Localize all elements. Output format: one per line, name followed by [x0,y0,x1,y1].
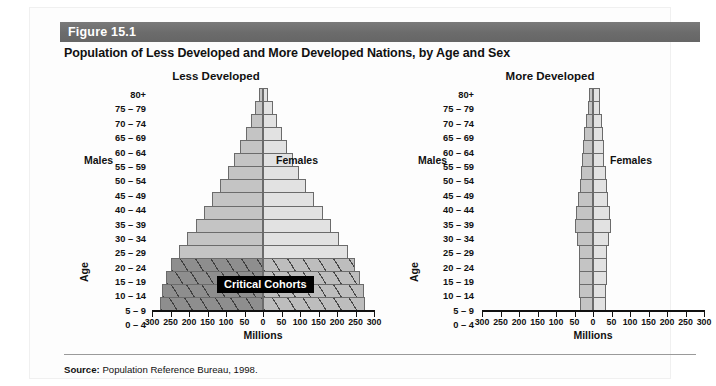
x-axis-tick [300,310,301,317]
x-axis-tick [226,310,227,317]
age-tick-label: 25 – 29 [100,246,146,260]
age-tick-label: 65 – 69 [428,131,474,145]
age-tick-label: 10 – 14 [100,289,146,303]
x-axis-tick-label: 300 [691,317,716,327]
age-tick-label: 30 – 34 [428,232,474,246]
x-axis-tick [245,310,246,317]
age-tick-label: 40 – 44 [428,203,474,217]
x-axis-tick [263,310,264,317]
age-tick-label: 5 – 9 [428,304,474,318]
legend-label-females: Females [276,154,318,166]
y-axis-title-right: Age [408,262,420,282]
x-axis-tick [171,310,172,317]
x-axis-tick [649,310,650,317]
legend-label-males: Males [418,154,447,166]
age-tick-label: 80+ [100,88,146,102]
figure-panel: Figure 15.1 Population of Less Developed… [30,8,670,378]
age-tick-label: 75 – 79 [428,102,474,116]
x-axis-tick [482,310,483,317]
x-axis-title-right: Millions [482,329,704,341]
x-axis-tick [319,310,320,317]
age-tick-label: 40 – 44 [100,203,146,217]
x-axis-title-left: Millions [152,329,374,341]
age-tick-label: 45 – 49 [428,189,474,203]
x-axis-tick [575,310,576,317]
x-axis-ticklabels-left: 30025020015010050050100150200250300 [140,317,386,329]
x-axis-tick [337,310,338,317]
x-axis-tick [519,310,520,317]
x-axis-tick [374,310,375,317]
x-axis-tick [686,310,687,317]
y-axis-ticklabels-right: 80+75 – 7970 – 7465 – 6960 – 6455 – 5950… [428,88,474,310]
age-tick-label: 10 – 14 [428,289,474,303]
x-axis-left [152,310,374,317]
source-label: Source: [64,364,100,375]
age-tick-label: 35 – 39 [428,218,474,232]
age-tick-label: 15 – 19 [100,275,146,289]
source-line: Source: Population Reference Bureau, 199… [64,364,258,375]
x-axis-tick [630,310,631,317]
age-tick-label: 20 – 24 [428,261,474,275]
figure-number-band: Figure 15.1 [60,22,700,42]
x-axis-tick [282,310,283,317]
age-tick-label: 20 – 24 [100,261,146,275]
source-text: Population Reference Bureau, 1998. [100,364,258,375]
age-tick-label: 30 – 34 [100,232,146,246]
x-axis-tick [208,310,209,317]
age-tick-label: 65 – 69 [100,131,146,145]
chart-less-developed: Less Developed Age 80+75 – 7970 – 7465 –… [44,70,388,340]
age-tick-label: 35 – 39 [100,218,146,232]
x-axis-tick [556,310,557,317]
age-tick-label: 50 – 54 [100,174,146,188]
x-axis-tick [152,310,153,317]
chart-more-developed: More Developed Age 80+75 – 7970 – 7465 –… [382,70,716,340]
y-axis-title-left: Age [78,262,90,282]
age-tick-label: 50 – 54 [428,174,474,188]
age-tick-label: 45 – 49 [100,189,146,203]
x-axis-right [482,310,704,317]
x-axis-tick [612,310,613,317]
age-tick-label: 15 – 19 [428,275,474,289]
y-axis-ticklabels-left: 80+75 – 7970 – 7465 – 6960 – 6455 – 5950… [100,88,146,310]
footer-divider [64,354,696,355]
age-tick-label: 25 – 29 [428,246,474,260]
figure-title: Population of Less Developed and More De… [64,46,694,60]
chart-title-more-developed: More Developed [382,70,716,82]
x-axis-tick [593,310,594,317]
x-axis-tick [356,310,357,317]
x-axis-tick [189,310,190,317]
critical-cohorts-callout: Critical Cohorts [217,276,314,293]
x-axis-tick [704,310,705,317]
chart-title-less-developed: Less Developed [44,70,388,82]
x-axis-tick [538,310,539,317]
age-tick-label: 80+ [428,88,474,102]
legend-label-females: Females [610,154,652,166]
x-axis-tick [501,310,502,317]
legend-label-males: Males [84,154,113,166]
age-tick-label: 70 – 74 [428,117,474,131]
x-axis-ticklabels-right: 30025020015010050050100150200250300 [470,317,716,329]
plot-area-more-developed [482,88,704,310]
age-tick-label: 0 – 4 [428,318,474,332]
age-tick-label: 75 – 79 [100,102,146,116]
figure-number: Figure 15.1 [68,24,136,40]
x-axis-tick [667,310,668,317]
age-tick-label: 70 – 74 [100,117,146,131]
